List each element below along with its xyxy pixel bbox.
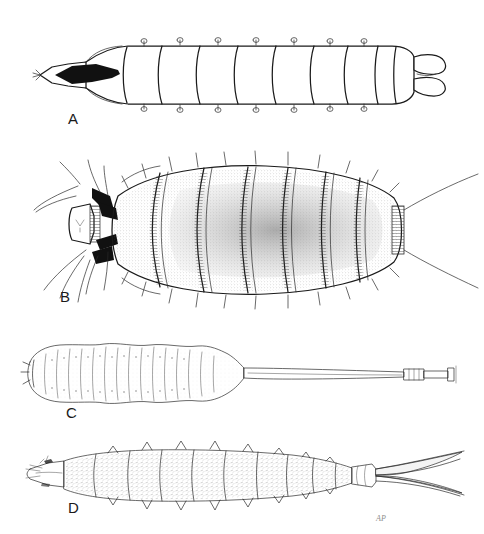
panel-d-drawing: D AP [0,425,484,534]
panel-a-drawing: A [0,0,484,140]
panel-a: A [0,0,484,140]
panel-c: C [0,320,484,430]
panel-c-drawing: C [0,320,484,430]
artist-signature: AP [375,514,386,523]
illustration-plate: A [0,0,484,534]
larva-c-body [28,344,244,404]
larva-d-head [26,456,64,487]
panel-c-label: C [66,404,77,421]
panel-b-drawing: B [0,140,484,320]
larva-b-head-capsule [69,204,100,244]
larva-b-caudal-setae [404,174,478,210]
panel-b: B [0,140,484,320]
larva-b-posterior [392,174,478,288]
panel-d: D AP [0,425,484,534]
larva-d-terminal-collar [352,464,376,487]
larva-a-posterior-spiracles [414,55,446,96]
panel-a-label: A [68,110,79,127]
panel-b-label: B [60,288,71,305]
larva-d-forked-tail [376,451,464,496]
larva-c-siphon [244,366,456,383]
panel-d-label: D [68,499,79,516]
